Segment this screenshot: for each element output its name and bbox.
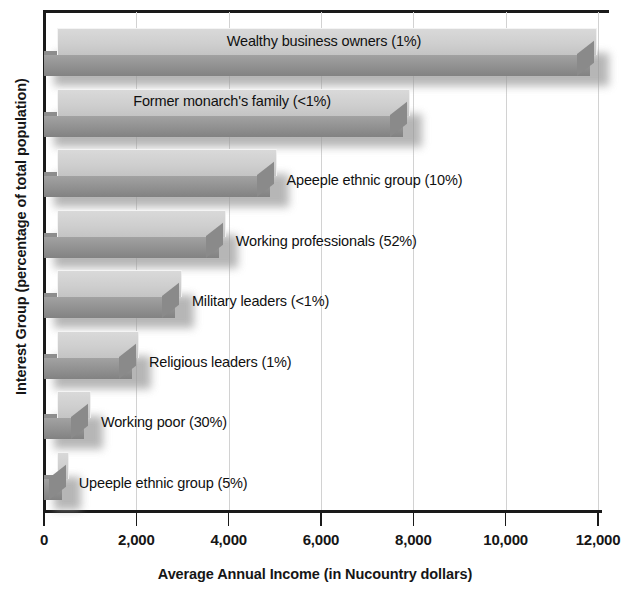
- bar-front-face: [44, 176, 270, 197]
- x-axis-tick-label: 4,000: [184, 531, 274, 548]
- x-axis-tick: [505, 513, 507, 526]
- x-axis-tick: [597, 513, 599, 526]
- x-axis-tick: [43, 513, 45, 526]
- x-axis-tick-label: 8,000: [368, 531, 458, 548]
- bar-front-face: [44, 55, 590, 76]
- plot-area: 02,0004,0006,0008,00010,00012,000 Wealth…: [44, 10, 600, 510]
- gridline: [598, 12, 599, 510]
- x-axis-tick-label: 2,000: [91, 531, 181, 548]
- bar-front-face: [44, 297, 175, 318]
- bar-front-face: [44, 237, 219, 258]
- gridline: [413, 12, 414, 510]
- bar-label: Military leaders (<1%): [192, 293, 329, 309]
- gridline: [321, 12, 322, 510]
- x-axis-tick: [228, 513, 230, 526]
- x-axis-line: [43, 510, 602, 513]
- bar-label: Religious leaders (1%): [149, 354, 292, 370]
- x-axis-title: Average Annual Income (in Nucountry doll…: [0, 566, 630, 582]
- bar-top-face: [57, 270, 182, 297]
- y-axis-title: Interest Group (percentage of total popu…: [13, 85, 29, 395]
- bar-chart: Interest Group (percentage of total popu…: [0, 0, 630, 598]
- bar-label: Former monarch's family (<1%): [133, 93, 331, 109]
- gridline: [506, 12, 507, 510]
- bar-label: Working poor (30%): [101, 414, 227, 430]
- plot-top-border: [44, 10, 609, 13]
- x-axis-tick-label: 6,000: [276, 531, 366, 548]
- x-axis-tick-label: 12,000: [553, 531, 630, 548]
- x-axis-tick: [320, 513, 322, 526]
- bar-label: Upeeple ethnic group (5%): [79, 475, 248, 491]
- bar-label: Wealthy business owners (1%): [227, 33, 422, 49]
- bar-front-face: [44, 116, 403, 137]
- x-axis-tick-label: 10,000: [461, 531, 551, 548]
- bar-label: Apeeple ethnic group (10%): [287, 172, 463, 188]
- bar-label: Working professionals (52%): [236, 233, 417, 249]
- bar-top-face: [57, 210, 226, 237]
- x-axis-tick: [413, 513, 415, 526]
- x-axis-tick-label: 0: [0, 531, 89, 548]
- bar-top-face: [57, 149, 277, 176]
- x-axis-tick: [136, 513, 138, 526]
